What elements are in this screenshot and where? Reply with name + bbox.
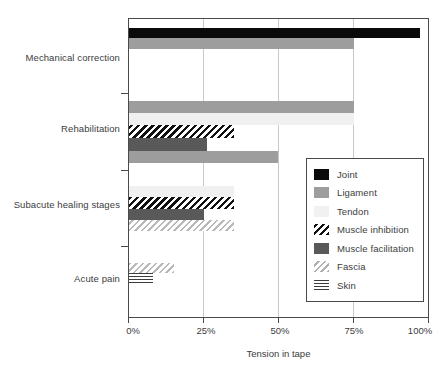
legend-item-joint: Joint xyxy=(314,165,417,184)
bar-rehabilitation-tendon xyxy=(129,113,354,125)
legend-swatch-skin-icon xyxy=(314,280,329,291)
legend-label-tendon: Tendon xyxy=(337,206,369,217)
bar-rehabilitation-ligament xyxy=(129,101,354,113)
x-axis-tick-0 xyxy=(128,318,129,323)
y-axis-label-mechanical-correction: Mechanical correction xyxy=(0,52,120,63)
legend-item-tendon: Tendon xyxy=(314,202,417,221)
plot-area: Joint Ligament Tendon Muscle inhibition … xyxy=(128,18,429,318)
bar-mechanical-correction-joint xyxy=(129,28,420,38)
bar-acute-pain-fascia xyxy=(129,263,174,273)
legend-swatch-tendon-icon xyxy=(314,206,329,217)
bar-subacute-healing-stages-tendon xyxy=(129,186,234,197)
legend-swatch-muscle-facilitation-icon xyxy=(314,243,329,254)
y-axis-label-rehabilitation: Rehabilitation xyxy=(0,123,120,134)
x-axis-tick-label-75: 75% xyxy=(344,325,363,336)
legend-label-muscle-inhibition: Muscle inhibition xyxy=(337,224,409,235)
x-axis-tick-75 xyxy=(353,318,354,323)
legend-item-fascia: Fascia xyxy=(314,258,417,277)
chart-legend: Joint Ligament Tendon Muscle inhibition … xyxy=(306,158,424,302)
x-axis-tick-label-100: 100% xyxy=(408,325,432,336)
y-axis-label-subacute-healing-stages: Subacute healing stages xyxy=(0,199,120,210)
bar-acute-pain-skin xyxy=(129,273,153,284)
legend-label-ligament: Ligament xyxy=(337,187,377,198)
x-axis-title: Tension in tape xyxy=(128,348,429,359)
legend-swatch-joint-icon xyxy=(314,169,329,180)
x-axis-tick-label-25: 25% xyxy=(196,325,215,336)
bar-mechanical-correction-ligament xyxy=(129,38,354,49)
gridline-25 xyxy=(203,19,204,317)
x-axis-tick-50 xyxy=(278,318,279,323)
legend-label-fascia: Fascia xyxy=(337,261,366,272)
legend-label-joint: Joint xyxy=(337,169,358,180)
bar-subacute-healing-stages-fascia xyxy=(129,220,234,231)
bar-rehabilitation-muscle-inhibition xyxy=(129,125,234,138)
legend-item-ligament: Ligament xyxy=(314,184,417,203)
legend-swatch-ligament-icon xyxy=(314,187,329,198)
x-axis-tick-label-50: 50% xyxy=(270,325,289,336)
tension-in-tape-bar-chart: Mechanical correction Rehabilitation Sub… xyxy=(0,0,445,380)
bar-rehabilitation-muscle-facilitation xyxy=(129,138,207,151)
x-axis-tick-100 xyxy=(428,318,429,323)
bar-subacute-healing-stages-muscle-inhibition xyxy=(129,197,234,209)
bar-rehabilitation-fascia xyxy=(129,151,278,163)
legend-label-skin: Skin xyxy=(337,280,356,291)
legend-label-muscle-facilitation: Muscle facilitation xyxy=(337,243,414,254)
y-axis-label-acute-pain: Acute pain xyxy=(0,273,120,284)
legend-swatch-muscle-inhibition-icon xyxy=(314,224,329,235)
x-axis-tick-label-0: 0% xyxy=(126,325,140,336)
gridline-50 xyxy=(278,19,279,317)
legend-item-muscle-inhibition: Muscle inhibition xyxy=(314,221,417,240)
legend-item-skin: Skin xyxy=(314,276,417,295)
x-axis-tick-25 xyxy=(203,318,204,323)
legend-swatch-fascia-icon xyxy=(314,261,329,272)
bar-subacute-healing-stages-muscle-facilitation xyxy=(129,209,204,220)
legend-item-muscle-facilitation: Muscle facilitation xyxy=(314,239,417,258)
